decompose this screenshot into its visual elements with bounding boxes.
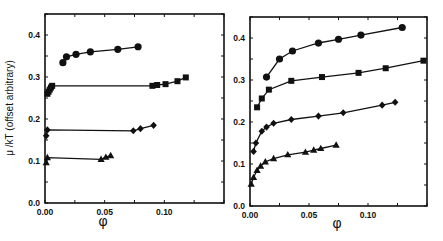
y-tick-label: 0.4 [28, 30, 40, 40]
square-marker-icon [259, 95, 265, 101]
left-x-axis-label: φ [98, 213, 107, 229]
x-tick-label: 0.05 [301, 210, 318, 220]
x-tick-label: 0.00 [242, 210, 259, 220]
diamond-marker-icon [315, 113, 322, 120]
diamond-marker-icon [253, 139, 260, 146]
circle-marker-icon [87, 48, 94, 55]
diamond-marker-icon [270, 120, 277, 127]
plot-frame [45, 14, 224, 203]
circle-marker-icon [72, 51, 79, 58]
figure: 0.000.050.100.00.10.20.30.4 0.000.050.10… [0, 0, 443, 241]
x-tick-label: 0.10 [360, 210, 377, 220]
triangle-marker-icon [248, 180, 255, 186]
circle-marker-icon [315, 39, 322, 46]
circle-marker-icon [289, 47, 296, 54]
square-marker-icon [154, 82, 160, 88]
plot-frame [250, 17, 427, 206]
left-y-axis-label: μ /kT (offset arbitrary) [4, 60, 15, 155]
square-marker-icon [356, 70, 362, 76]
y-tick-label: 0.4 [233, 33, 245, 43]
triangle-marker-icon [250, 174, 257, 180]
square-marker-icon [183, 74, 189, 80]
y-tick-label: 0.1 [28, 156, 40, 166]
right-panel: 0.000.050.100.00.10.20.30.4 [233, 17, 427, 220]
triangle-marker-icon [107, 152, 114, 158]
square-marker-icon [420, 58, 426, 64]
diamond-marker-icon [250, 148, 257, 155]
circle-marker-icon [399, 24, 406, 31]
square-marker-icon [254, 104, 260, 110]
circle-marker-icon [63, 53, 70, 60]
circle-marker-icon [276, 55, 283, 62]
circle-marker-icon [357, 31, 364, 38]
diamond-marker-icon [288, 116, 295, 123]
diamond-marker-icon [150, 122, 157, 129]
series-line-circles [267, 28, 403, 78]
right-x-axis-label: φ [332, 215, 341, 231]
square-marker-icon [266, 87, 272, 93]
square-marker-icon [319, 74, 325, 80]
x-tick-label: 0.10 [156, 207, 173, 217]
series-line-diamonds [46, 125, 153, 136]
circle-marker-icon [114, 46, 121, 53]
y-tick-label: 0.3 [28, 72, 40, 82]
left-panel: 0.000.050.100.00.10.20.30.4 [28, 14, 224, 217]
circle-marker-icon [263, 73, 270, 80]
square-marker-icon [174, 78, 180, 84]
diamond-marker-icon [43, 132, 50, 139]
circle-marker-icon [134, 43, 141, 50]
y-tick-label: 0.1 [233, 159, 245, 169]
y-tick-label: 0.2 [233, 117, 245, 127]
y-tick-label: 0.3 [233, 75, 245, 85]
diamond-marker-icon [392, 99, 399, 106]
square-marker-icon [288, 78, 294, 84]
circle-marker-icon [335, 36, 342, 43]
y-tick-label: 0.2 [28, 114, 40, 124]
diamond-marker-icon [130, 127, 137, 134]
x-tick-label: 0.00 [37, 207, 54, 217]
square-marker-icon [163, 81, 169, 87]
diamond-marker-icon [137, 125, 144, 132]
y-tick-label: 0.0 [28, 198, 40, 208]
diamond-marker-icon [340, 109, 347, 116]
square-marker-icon [49, 83, 55, 89]
series-line-squares [257, 61, 423, 108]
triangle-marker-icon [333, 141, 340, 147]
series-line-diamonds [254, 102, 396, 151]
diamond-marker-icon [379, 102, 386, 109]
y-tick-label: 0.0 [233, 201, 245, 211]
square-marker-icon [383, 65, 389, 71]
